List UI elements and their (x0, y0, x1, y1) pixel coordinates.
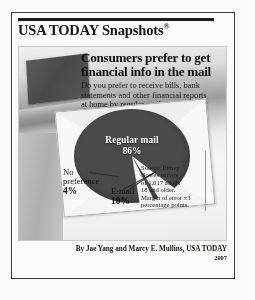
source-line-3: of 1,017 adults (141, 179, 203, 186)
source-line-4: 18 and older. (141, 186, 203, 193)
source-line-1: Source: Pitney (141, 164, 203, 171)
source-line-2: Bowes survey (141, 171, 203, 178)
snapshot-page: USA TODAY Snapshots® Consumers prefer to… (0, 0, 255, 300)
masthead: USA TODAY Snapshots® (12, 13, 234, 47)
regular-mail-value: 86% (74, 146, 190, 157)
source-line-6: percentage points. (141, 201, 203, 208)
masthead-rule (18, 18, 214, 21)
no-preference-value: 4% (63, 186, 105, 196)
no-preference-label-line-2: preference (63, 177, 105, 186)
callout-no-preference: No preference 4% (63, 168, 105, 196)
credit-byline: By Jae Yang and Marcy E. Mullins, USA TO… (76, 245, 227, 254)
headline: Consumers prefer to get financial info i… (81, 51, 225, 80)
source-note: Source: Pitney Bowes survey of 1,017 adu… (141, 164, 203, 208)
credit-year: 2007 (76, 254, 227, 262)
masthead-title: USA TODAY Snapshots® (18, 22, 169, 39)
credit-footer: By Jae Yang and Marcy E. Mullins, USA TO… (76, 245, 227, 262)
registered-mark-icon: ® (163, 22, 169, 31)
deck-line-1: Do you prefer to receive bills, bank (81, 81, 227, 91)
graphic-panel: Consumers prefer to get financial info i… (18, 46, 227, 241)
source-divider (205, 151, 206, 211)
headline-line-2: financial info in the mail (81, 65, 225, 79)
snapshot-frame: USA TODAY Snapshots® Consumers prefer to… (11, 12, 235, 279)
masthead-title-text: USA TODAY Snapshots (18, 22, 163, 38)
pie-slice-label-regular-mail: Regular mail 86% (74, 135, 190, 156)
gray-block-graphic (19, 133, 63, 241)
headline-line-1: Consumers prefer to get (81, 51, 225, 65)
regular-mail-label: Regular mail (74, 135, 190, 146)
source-line-5: Margin of error ±3 (141, 194, 203, 201)
